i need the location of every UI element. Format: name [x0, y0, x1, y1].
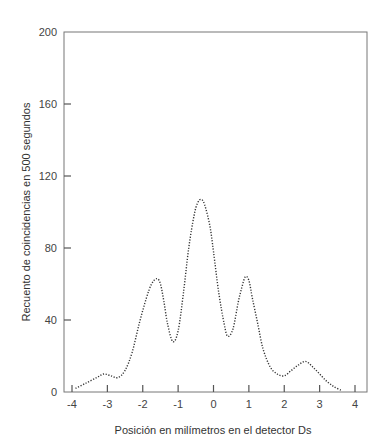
y-tick-label: 40	[45, 314, 57, 326]
chart: 04080120160200 -4-3-2-101234 Posición en…	[0, 0, 387, 447]
y-tick-label: 200	[39, 26, 57, 38]
x-tick-label: 1	[246, 398, 252, 410]
x-tick-label: -1	[173, 398, 183, 410]
x-tick-label: -2	[138, 398, 148, 410]
x-axis-title: Posición en milímetros en el detector Ds	[115, 424, 312, 436]
x-axis-ticks: -4-3-2-101234	[67, 385, 358, 410]
data-series-line	[76, 199, 341, 390]
y-axis-ticks: 04080120160200	[39, 26, 71, 398]
y-tick-label: 120	[39, 170, 57, 182]
x-tick-label: -4	[67, 398, 77, 410]
y-axis-title: Recuento de coincidencias en 500 segundo…	[20, 102, 32, 321]
y-tick-label: 80	[45, 242, 57, 254]
x-tick-label: 3	[317, 398, 323, 410]
x-tick-label: -3	[102, 398, 112, 410]
y-tick-label: 0	[51, 386, 57, 398]
x-tick-label: 4	[352, 398, 358, 410]
y-tick-label: 160	[39, 98, 57, 110]
x-tick-label: 2	[281, 398, 287, 410]
x-tick-label: 0	[210, 398, 216, 410]
plot-frame	[64, 32, 367, 392]
